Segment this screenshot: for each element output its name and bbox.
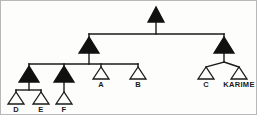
- tree-diagram-figure: A B C KARIME D E F: [0, 0, 257, 115]
- node-de-triangle: [19, 66, 39, 82]
- node-right-triangle: [214, 37, 234, 53]
- leaf-c-label: C: [203, 80, 209, 89]
- edge-right-v-to-karime: [224, 62, 239, 67]
- leaf-d-triangle: [8, 92, 24, 104]
- leaf-d-label: D: [13, 105, 19, 114]
- node-root-triangle: [148, 7, 164, 22]
- node-left-triangle: [79, 37, 99, 53]
- leaf-karime-triangle: [231, 67, 247, 79]
- leaf-f-triangle: [56, 92, 72, 104]
- leaf-karime-label: KARIME: [223, 80, 254, 89]
- tree-canvas: A B C KARIME D E F: [1, 1, 257, 115]
- label-group: A B C KARIME D E F: [13, 80, 255, 114]
- node-group: [8, 7, 247, 104]
- leaf-a-label: A: [98, 80, 104, 89]
- leaf-e-label: E: [38, 105, 43, 114]
- leaf-b-triangle: [130, 67, 146, 79]
- edge-right-v-to-c: [206, 62, 224, 67]
- leaf-e-triangle: [33, 92, 49, 104]
- leaf-c-triangle: [198, 67, 214, 79]
- leaf-f-label: F: [62, 105, 67, 114]
- leaf-b-label: B: [135, 80, 141, 89]
- leaf-a-triangle: [93, 67, 109, 79]
- node-f-triangle: [54, 66, 74, 82]
